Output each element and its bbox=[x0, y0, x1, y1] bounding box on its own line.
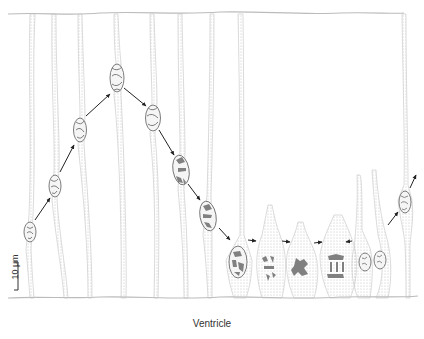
ventricle-caption: Ventricle bbox=[0, 318, 424, 329]
pial-surface bbox=[8, 12, 404, 14]
scale-bar-label: 10 μm bbox=[10, 250, 20, 284]
nucleus-5 bbox=[146, 105, 161, 131]
interkinetic-nuclear-migration-diagram bbox=[0, 0, 424, 339]
diagram-canvas bbox=[0, 0, 424, 339]
ventricular-surface bbox=[8, 296, 418, 298]
nucleus-12a bbox=[359, 253, 371, 271]
cell-processes bbox=[26, 14, 413, 298]
chromatin bbox=[27, 67, 158, 239]
nucleus-12b bbox=[374, 251, 386, 269]
